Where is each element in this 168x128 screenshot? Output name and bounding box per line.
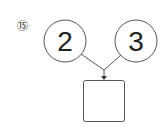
answer-box[interactable] (84, 81, 125, 122)
arrow-down-icon (101, 76, 107, 80)
input-value-2: 3 (128, 26, 144, 57)
input-node-2: 3 (115, 20, 157, 62)
problem-number: ⑮ (17, 20, 28, 32)
connector-right (104, 55, 121, 70)
input-value-1: 2 (57, 26, 73, 57)
input-node-1: 2 (44, 20, 86, 62)
connector-left (81, 54, 104, 70)
diagram-canvas: ⑮ 2 3 (0, 0, 168, 128)
